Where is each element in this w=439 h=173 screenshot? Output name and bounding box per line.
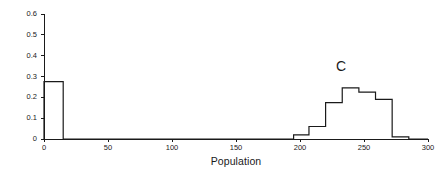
- x-tick-label: 0: [31, 144, 57, 152]
- x-tick-label: 50: [95, 144, 121, 152]
- x-tick-label: 200: [287, 144, 313, 152]
- y-tick-label: 0.5: [11, 31, 37, 39]
- y-tick-label: 0: [11, 135, 37, 143]
- x-axis-title: Population: [44, 155, 428, 167]
- y-tick-label: 0.3: [11, 73, 37, 81]
- x-tick-label: 250: [351, 144, 377, 152]
- y-tick-label: 0.4: [11, 52, 37, 60]
- x-tick-label: 150: [223, 144, 249, 152]
- y-tick-label: 0.1: [11, 114, 37, 122]
- x-tick-label: 100: [159, 144, 185, 152]
- tick-marks: [41, 14, 428, 142]
- histogram-step-line: [44, 82, 428, 139]
- x-tick-label: 300: [415, 144, 439, 152]
- axes-lines: [44, 14, 428, 139]
- y-tick-label: 0.2: [11, 93, 37, 101]
- series-label: C: [336, 59, 346, 73]
- y-tick-label: 0.6: [11, 10, 37, 18]
- histogram-outline: [44, 82, 428, 139]
